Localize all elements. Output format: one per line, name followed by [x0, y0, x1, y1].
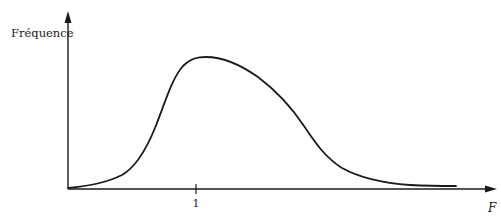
- y-axis-label: Fréquence: [11, 26, 74, 40]
- x-axis-label: F: [487, 201, 497, 215]
- x-tick-label-1: 1: [193, 197, 200, 210]
- x-axis-arrow-icon: [485, 186, 497, 193]
- density-curve: [68, 57, 456, 188]
- f-distribution-chart: Fréquence 1 F: [0, 0, 501, 218]
- y-axis-arrow-icon: [65, 11, 72, 23]
